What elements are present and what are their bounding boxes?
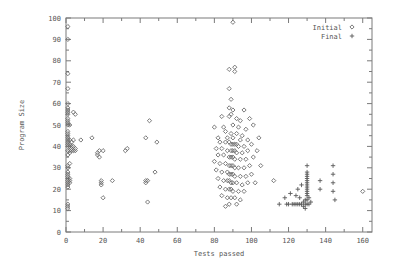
y-tick-label: 50 bbox=[53, 122, 61, 130]
legend-label-initial: Initial bbox=[312, 24, 342, 32]
x-axis-title: Tests passed bbox=[194, 250, 245, 258]
y-tick-label: 30 bbox=[53, 164, 61, 172]
y-tick-label: 100 bbox=[48, 15, 61, 23]
y-tick-label: 40 bbox=[53, 143, 61, 151]
x-tick-label: 0 bbox=[64, 237, 68, 245]
x-tick-label: 140 bbox=[319, 237, 332, 245]
scatter-plot: 020406080100120140160 010203040506070809… bbox=[0, 0, 395, 265]
y-tick-label: 80 bbox=[53, 57, 61, 65]
x-tick-label: 100 bbox=[245, 237, 258, 245]
chart-container: 020406080100120140160 010203040506070809… bbox=[0, 0, 395, 265]
y-tick-label: 10 bbox=[53, 207, 61, 215]
x-tick-label: 20 bbox=[99, 237, 107, 245]
y-tick-label: 90 bbox=[53, 36, 61, 44]
y-tick-label: 70 bbox=[53, 79, 61, 87]
legend-label-final: Final bbox=[321, 33, 342, 41]
x-tick-label: 120 bbox=[282, 237, 295, 245]
x-tick-label: 40 bbox=[136, 237, 144, 245]
y-tick-label: 60 bbox=[53, 100, 61, 108]
y-axis-title: Program Size bbox=[18, 100, 26, 151]
x-tick-label: 160 bbox=[356, 237, 369, 245]
x-tick-label: 60 bbox=[173, 237, 181, 245]
y-tick-label: 20 bbox=[53, 186, 61, 194]
x-tick-label: 80 bbox=[210, 237, 218, 245]
y-tick-label: 0 bbox=[57, 229, 61, 237]
